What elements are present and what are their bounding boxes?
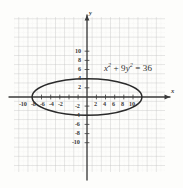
x-tick-label--2: -2	[58, 101, 63, 107]
y-tick-label-10: 10	[75, 48, 81, 54]
y-tick-label--4: -4	[75, 112, 80, 118]
ellipse-equation-annotation: x2 + 9y2 = 36	[104, 64, 152, 73]
y-axis-name-label: y	[89, 10, 92, 17]
y-tick-label--8: -8	[75, 130, 80, 136]
y-tick-label-4: 4	[78, 75, 81, 81]
x-tick-label-8: 8	[121, 101, 124, 107]
x-tick-label-6: 6	[112, 101, 115, 107]
y-tick-label--2: -2	[75, 103, 80, 109]
equation-equals-operator: =	[133, 63, 143, 73]
equation-plus-operator: +	[111, 63, 121, 73]
x-tick-label-4: 4	[103, 101, 106, 107]
y-tick-label--10: -10	[72, 139, 80, 145]
y-tick-label-6: 6	[78, 66, 81, 72]
x-tick-label--6: -6	[40, 101, 45, 107]
y-tick-label-2: 2	[78, 84, 81, 90]
x-tick-label-2: 2	[94, 101, 97, 107]
coordinate-plane	[0, 0, 183, 188]
x-axis-name-label: x	[171, 88, 174, 95]
x-tick-label--10: -10	[19, 101, 27, 107]
y-tick-label--6: -6	[75, 121, 80, 127]
equation-result-value: 36	[143, 63, 152, 73]
x-tick-label--4: -4	[49, 101, 54, 107]
major-gridlines	[14, 17, 165, 172]
y-tick-label-8: 8	[78, 57, 81, 63]
x-tick-label--8: -8	[31, 101, 36, 107]
ellipse-graph-figure: -10 -8 -6 -4 -2 2 4 6 8 10 10 8 6 4 2 -2…	[0, 0, 183, 188]
x-tick-label-10: 10	[129, 101, 135, 107]
